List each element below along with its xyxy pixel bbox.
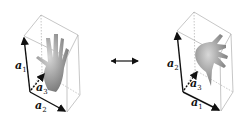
double-arrow-icon [111, 58, 138, 64]
right-axis-label-a3: a3 [190, 78, 202, 92]
left-axis-label-a3: a3 [36, 82, 48, 96]
left-axis-label-a2: a2 [35, 100, 47, 114]
right-axis-label-a1: a1 [191, 97, 203, 111]
right-axis-label-a2: a2 [167, 58, 179, 72]
left-axis-label-a1: a1 [15, 60, 27, 74]
